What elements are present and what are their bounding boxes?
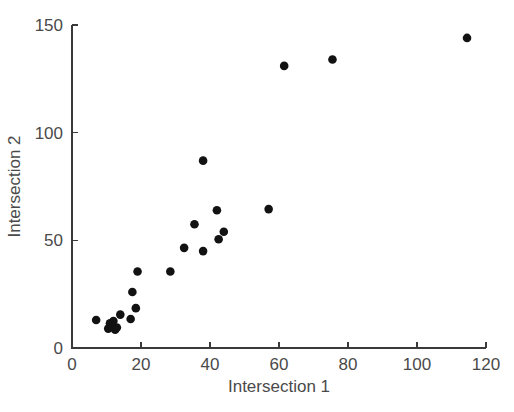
data-point-8 [126, 315, 135, 324]
x-axis-title: Intersection 1 [228, 377, 330, 396]
data-point-13 [180, 244, 189, 253]
data-point-18 [214, 235, 223, 244]
data-point-14 [190, 220, 199, 229]
data-point-15 [199, 247, 208, 256]
data-point-21 [280, 62, 289, 71]
data-point-12 [166, 267, 175, 276]
data-point-9 [128, 288, 137, 297]
plot-canvas: 020406080100120050100150 Intersection 1I… [0, 0, 514, 412]
data-point-17 [213, 206, 222, 215]
y-axis-title: Intersection 2 [5, 135, 24, 237]
axes-group [72, 25, 486, 348]
x-tick-label-0: 0 [67, 355, 76, 374]
y-tick-label-0: 0 [54, 339, 63, 358]
axis-spines [72, 25, 486, 348]
y-tick-label-100: 100 [35, 124, 63, 143]
data-markers-group [92, 34, 471, 334]
data-point-11 [133, 267, 142, 276]
data-point-22 [328, 55, 337, 64]
scatter-plot-figure: 020406080100120050100150 Intersection 1I… [0, 0, 514, 412]
data-point-16 [199, 156, 208, 165]
data-point-0 [92, 316, 101, 325]
data-point-23 [463, 34, 472, 43]
x-tick-label-100: 100 [403, 355, 431, 374]
data-point-19 [220, 227, 229, 236]
x-tick-label-60: 60 [270, 355, 289, 374]
data-point-6 [113, 323, 122, 332]
x-tick-label-40: 40 [201, 355, 220, 374]
y-tick-label-150: 150 [35, 16, 63, 35]
x-tick-label-80: 80 [339, 355, 358, 374]
x-tick-label-120: 120 [472, 355, 500, 374]
data-point-10 [132, 304, 141, 313]
tick-labels-group: 020406080100120050100150 [35, 16, 501, 374]
data-point-7 [116, 310, 125, 319]
x-tick-label-20: 20 [132, 355, 151, 374]
ticks-group [72, 25, 486, 348]
data-point-20 [264, 205, 273, 214]
y-tick-label-50: 50 [44, 231, 63, 250]
